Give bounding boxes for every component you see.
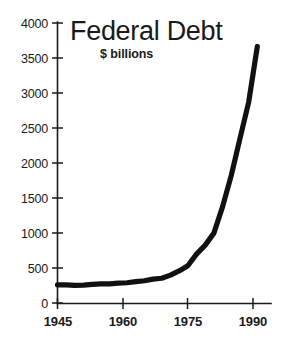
chart-title: Federal Debt [70, 16, 223, 46]
y-label-2000: 2000 [21, 157, 48, 171]
x-label-1945: 1945 [44, 314, 73, 329]
x-label-1960: 1960 [109, 314, 138, 329]
data-series-federal-debt [58, 46, 258, 285]
y-label-1000: 1000 [21, 227, 48, 241]
y-label-2500: 2500 [21, 122, 48, 136]
y-label-500: 500 [28, 262, 49, 276]
x-axis-labels: 1945 1960 1975 1990 [44, 314, 268, 329]
x-label-1990: 1990 [239, 314, 268, 329]
y-label-3500: 3500 [21, 52, 48, 66]
x-label-1975: 1975 [174, 314, 203, 329]
federal-debt-chart: Federal Debt $ billions 4000 3500 3000 2… [0, 0, 284, 347]
chart-subtitle: $ billions [100, 47, 153, 61]
chart-plot-area: Federal Debt $ billions 4000 3500 3000 2… [0, 0, 284, 347]
y-label-0: 0 [41, 297, 48, 311]
y-axis-labels: 4000 3500 3000 2500 2000 1500 1000 500 0 [21, 17, 48, 311]
y-label-4000: 4000 [21, 17, 48, 31]
y-label-3000: 3000 [21, 87, 48, 101]
y-label-1500: 1500 [21, 192, 48, 206]
